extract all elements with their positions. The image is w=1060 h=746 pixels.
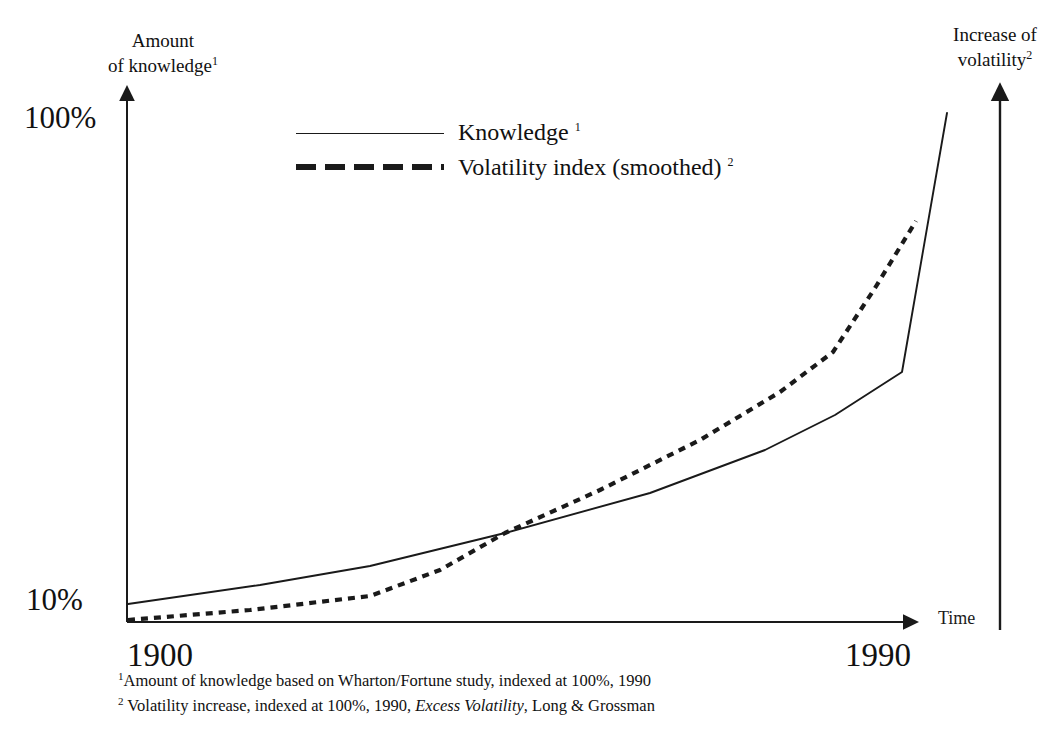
footnote-2-text-after: , Long & Grossman xyxy=(524,696,655,715)
footnote-2: 2 Volatility increase, indexed at 100%, … xyxy=(118,693,1018,718)
footnotes: 1Amount of knowledge based on Wharton/Fo… xyxy=(118,668,1018,718)
chart-figure: Amount of knowledge1 Increase of volatil… xyxy=(0,0,1060,746)
plot-area xyxy=(0,0,1060,746)
footnote-2-title-italic: Excess Volatility xyxy=(415,696,524,715)
series-line-volatility xyxy=(128,221,916,620)
footnote-1-text: Amount of knowledge based on Wharton/For… xyxy=(124,671,651,690)
footnote-2-text-before: Volatility increase, indexed at 100%, 19… xyxy=(124,696,416,715)
footnote-1: 1Amount of knowledge based on Wharton/Fo… xyxy=(118,668,1018,693)
